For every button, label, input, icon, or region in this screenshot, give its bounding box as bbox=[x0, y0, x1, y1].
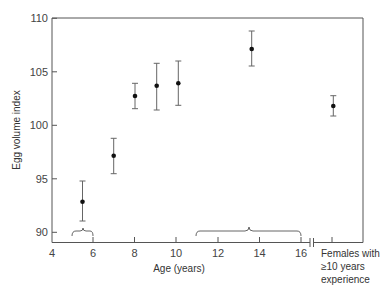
y-axis: 110 105 100 95 90 Egg volume index bbox=[11, 12, 57, 238]
female-category-line1: Females with bbox=[321, 248, 380, 259]
y-tick-90: 90 bbox=[36, 226, 48, 238]
data-point bbox=[80, 181, 86, 221]
female-category-line2: ≥10 years bbox=[321, 261, 365, 272]
x-tick-4: 4 bbox=[49, 247, 55, 259]
chart-canvas: 110 105 100 95 90 Egg volume index 4 6 8… bbox=[0, 0, 386, 290]
plot-frame bbox=[52, 18, 363, 243]
data-point bbox=[175, 61, 181, 105]
data-point bbox=[132, 83, 138, 108]
data-series bbox=[80, 31, 337, 221]
y-tick-95: 95 bbox=[36, 173, 48, 185]
x-tick-8: 8 bbox=[131, 247, 137, 259]
y-tick-105: 105 bbox=[30, 66, 48, 78]
y-tick-110: 110 bbox=[30, 12, 48, 24]
axis-break-icon bbox=[310, 238, 314, 247]
y-axis-label: Egg volume index bbox=[11, 90, 22, 170]
x-axis-label: Age (years) bbox=[153, 263, 205, 274]
brace-age-11-16 bbox=[196, 227, 301, 236]
x-tick-6: 6 bbox=[90, 247, 96, 259]
x-tick-16: 16 bbox=[295, 247, 307, 259]
data-point bbox=[111, 138, 117, 173]
brace-age-5-6 bbox=[72, 228, 93, 236]
x-tick-12: 12 bbox=[212, 247, 224, 259]
data-point bbox=[249, 31, 255, 66]
female-category-line3: experience bbox=[321, 274, 370, 285]
x-axis: 4 6 8 10 12 14 16 Age (years) Females wi… bbox=[49, 237, 380, 285]
y-tick-100: 100 bbox=[30, 119, 48, 131]
data-point bbox=[154, 63, 160, 110]
x-tick-14: 14 bbox=[253, 247, 265, 259]
x-tick-10: 10 bbox=[170, 247, 182, 259]
data-point bbox=[330, 96, 336, 116]
